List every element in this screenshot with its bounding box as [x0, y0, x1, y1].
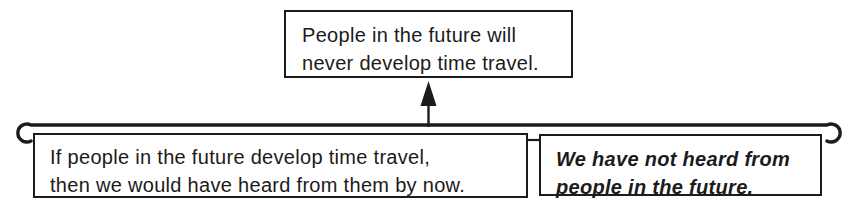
premise-right-text-line-2: people in the future.: [556, 173, 820, 201]
support-arrow-head: [421, 81, 437, 106]
premise-left-text-line-1: If people in the future develop time tra…: [50, 143, 526, 171]
premise-box-right: We have not heard from people in the fut…: [539, 134, 822, 196]
conclusion-text-line-1: People in the future will: [302, 21, 571, 49]
premise-left-text-line-2: then we would have heard from them by no…: [50, 171, 526, 199]
conclusion-text-line-2: never develop time travel.: [302, 49, 571, 77]
premise-right-text-line-1: We have not heard from: [556, 145, 820, 173]
premise-box-left: If people in the future develop time tra…: [33, 133, 528, 198]
conclusion-box: People in the future will never develop …: [284, 10, 573, 78]
argument-diagram: People in the future will never develop …: [0, 0, 851, 211]
